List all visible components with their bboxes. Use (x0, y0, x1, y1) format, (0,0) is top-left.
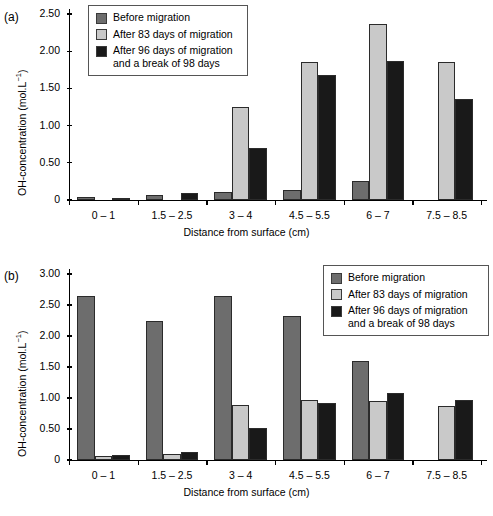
bar (163, 454, 181, 460)
legend-item: After 96 days of migration and a break o… (331, 304, 480, 329)
panel-label-a: (a) (4, 10, 19, 24)
x-axis-line (69, 200, 487, 201)
legend-item: After 83 days of migration (331, 288, 480, 301)
x-tick-label: 0 – 1 (69, 469, 138, 481)
x-tick-label: 3 – 4 (206, 209, 275, 221)
legend-swatch-icon (96, 29, 107, 40)
legend-a: Before migrationAfter 83 days of migrati… (88, 5, 248, 76)
x-tick (69, 200, 70, 205)
x-tick (412, 460, 413, 465)
y-tick (67, 366, 72, 367)
bar (455, 400, 473, 460)
y-tick (67, 162, 72, 163)
bar (387, 393, 405, 460)
y-tick-label: 2.50 (20, 7, 60, 19)
y-tick-label: 1.50 (20, 81, 60, 93)
x-axis-title-b: Distance from surface (cm) (0, 486, 493, 498)
y-tick-label: 3.00 (20, 267, 60, 279)
bar (283, 190, 301, 200)
y-tick (67, 335, 72, 336)
bar (318, 403, 336, 460)
legend-item-label: After 83 days of migration (348, 288, 468, 301)
bar (232, 405, 250, 460)
y-tick (67, 51, 72, 52)
x-tick-label: 1.5 – 2.5 (138, 209, 207, 221)
chart-panel-a: (a) OH-concentration (mol.L−1) 00.501.00… (0, 0, 493, 252)
bar (352, 361, 370, 460)
x-tick-label: 0 – 1 (69, 209, 138, 221)
bar (455, 99, 473, 200)
bar (438, 406, 456, 460)
x-tick-label: 4.5 – 5.5 (275, 209, 344, 221)
bar (369, 401, 387, 460)
legend-item-label: After 83 days of migration (113, 28, 233, 41)
y-tick-label: 0.50 (20, 156, 60, 168)
x-tick (275, 200, 276, 205)
bar (301, 400, 319, 460)
x-tick-label: 4.5 – 5.5 (275, 469, 344, 481)
legend-item-label: Before migration (348, 271, 425, 284)
x-axis-title-a: Distance from surface (cm) (0, 226, 493, 238)
bar (77, 296, 95, 460)
bar (112, 198, 130, 200)
legend-item-label: After 96 days of migration and a break o… (348, 304, 468, 329)
y-tick-label: 1.00 (20, 119, 60, 131)
x-tick-label: 3 – 4 (206, 469, 275, 481)
x-tick (412, 200, 413, 205)
y-tick-label: 0 (20, 453, 60, 465)
y-tick-label: 0 (20, 193, 60, 205)
y-tick-label: 2.00 (20, 44, 60, 56)
y-tick (67, 88, 72, 89)
legend-swatch-icon (96, 13, 107, 24)
y-axis-line (69, 269, 70, 460)
bar (181, 452, 199, 460)
legend-swatch-icon (331, 273, 342, 284)
legend-item: After 96 days of migration and a break o… (96, 44, 239, 69)
bar (112, 455, 130, 460)
y-tick-label: 2.00 (20, 329, 60, 341)
y-tick (67, 13, 72, 14)
x-tick (69, 460, 70, 465)
x-tick (481, 460, 482, 465)
legend-b: Before migrationAfter 83 days of migrati… (323, 265, 489, 336)
y-axis-line (69, 9, 70, 200)
bar (95, 456, 113, 460)
legend-swatch-icon (96, 46, 107, 57)
bar (283, 316, 301, 460)
legend-item: Before migration (331, 271, 480, 284)
bar (214, 192, 232, 200)
y-tick-label: 0.50 (20, 422, 60, 434)
legend-item: Before migration (96, 11, 239, 24)
bar (301, 62, 319, 200)
bar (146, 195, 164, 200)
panel-label-b: (b) (4, 269, 19, 283)
bar (438, 62, 456, 200)
legend-item-label: Before migration (113, 11, 190, 24)
x-tick (275, 460, 276, 465)
bar (352, 181, 370, 200)
x-tick (138, 460, 139, 465)
legend-swatch-icon (331, 289, 342, 300)
bar (77, 197, 95, 200)
bar (146, 321, 164, 460)
y-tick (67, 428, 72, 429)
bar (318, 75, 336, 200)
x-tick-label: 7.5 – 8.5 (412, 209, 481, 221)
bar (249, 428, 267, 460)
bar (387, 61, 405, 200)
y-tick-label: 1.50 (20, 360, 60, 372)
x-tick-label: 7.5 – 8.5 (412, 469, 481, 481)
x-tick (206, 460, 207, 465)
x-tick (206, 200, 207, 205)
y-tick (67, 125, 72, 126)
x-tick-label: 6 – 7 (344, 469, 413, 481)
x-axis-line (69, 460, 487, 461)
bar (232, 107, 250, 200)
chart-panel-b: (b) OH-concentration (mol.L−1) 00.501.00… (0, 252, 493, 516)
bar (249, 148, 267, 200)
y-tick-label: 1.00 (20, 391, 60, 403)
bar (369, 24, 387, 200)
x-tick (481, 200, 482, 205)
legend-swatch-icon (331, 306, 342, 317)
legend-item: After 83 days of migration (96, 28, 239, 41)
